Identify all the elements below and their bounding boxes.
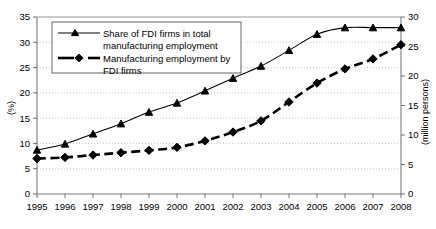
x-axis-tick-label: 2001 xyxy=(194,201,215,212)
y-axis-left-tick-label: 5 xyxy=(25,163,30,174)
y-axis-left-tick-label: 0 xyxy=(25,188,30,199)
y-axis-left-tick-label: 10 xyxy=(19,138,30,149)
x-axis-tick-label: 1997 xyxy=(82,201,103,212)
data-point-triangle xyxy=(257,62,264,69)
data-point-diamond xyxy=(33,154,41,162)
data-point-diamond xyxy=(229,128,237,136)
y-axis-right-tick-label: 10 xyxy=(408,129,419,140)
y-axis-left-tick-label: 35 xyxy=(19,11,30,22)
x-axis-tick-label: 1999 xyxy=(138,201,159,212)
y-axis-right-tick-label: 15 xyxy=(408,100,419,111)
y-axis-right-tick-label: 25 xyxy=(408,41,419,52)
data-point-diamond xyxy=(61,153,69,161)
data-point-diamond xyxy=(145,146,153,154)
data-point-triangle xyxy=(201,87,208,94)
chart-legend: Share of FDI firms in total manufacturin… xyxy=(52,22,241,76)
legend-label-series-a-line2: manufacturing employment xyxy=(103,40,218,51)
x-axis-tick-label: 2008 xyxy=(390,201,411,212)
y-axis-right-title: (million persons) xyxy=(420,79,430,145)
x-axis-tick-label: 1996 xyxy=(54,201,75,212)
x-axis-tick-label: 1995 xyxy=(26,201,47,212)
x-axis-tick-label: 2003 xyxy=(250,201,271,212)
y-axis-right-ticks: 051015202530 xyxy=(401,11,419,199)
data-point-triangle xyxy=(145,108,152,115)
y-axis-right-tick-label: 0 xyxy=(408,188,413,199)
x-axis-tick-label: 2004 xyxy=(278,201,299,212)
line-chart: 05101520253035 051015202530 199519961997… xyxy=(0,0,436,229)
x-axis-tick-label: 2005 xyxy=(306,201,327,212)
chart-container: 05101520253035 051015202530 199519961997… xyxy=(0,0,436,229)
x-axis-tick-label: 2006 xyxy=(334,201,355,212)
y-axis-left-tick-label: 15 xyxy=(19,113,30,124)
legend-label-series-b-line1: Manufacturing employment by xyxy=(103,53,231,64)
data-point-triangle xyxy=(173,99,180,106)
y-axis-left-tick-label: 30 xyxy=(19,37,30,48)
x-axis-tick-label: 2007 xyxy=(362,201,383,212)
data-point-diamond xyxy=(369,55,377,63)
y-axis-right-tick-label: 5 xyxy=(408,159,413,170)
data-point-triangle xyxy=(117,120,124,127)
y-axis-right-tick-label: 20 xyxy=(408,70,419,81)
data-point-diamond xyxy=(341,65,349,73)
data-point-diamond xyxy=(89,151,97,159)
y-axis-left-tick-label: 25 xyxy=(19,62,30,73)
x-axis-tick-label: 2000 xyxy=(166,201,187,212)
y-axis-left-ticks: 05101520253035 xyxy=(19,11,37,199)
data-point-triangle xyxy=(313,31,320,38)
legend-label-series-b-line2: FDI firms xyxy=(103,65,142,76)
data-point-triangle xyxy=(285,47,292,54)
data-point-triangle xyxy=(89,130,96,137)
y-axis-left-tick-label: 20 xyxy=(19,87,30,98)
x-axis-tick-label: 2002 xyxy=(222,201,243,212)
x-axis-tick-label: 1998 xyxy=(110,201,131,212)
data-point-diamond xyxy=(117,149,125,157)
y-axis-right-tick-label: 30 xyxy=(408,11,419,22)
legend-label-series-a-line1: Share of FDI firms in total xyxy=(103,28,211,39)
data-point-triangle xyxy=(229,75,236,82)
x-axis-ticks: 1995199619971998199920002001200220032004… xyxy=(26,194,411,212)
y-axis-left-title: (%) xyxy=(6,101,16,115)
data-point-diamond xyxy=(173,143,181,151)
data-point-diamond xyxy=(201,137,209,145)
